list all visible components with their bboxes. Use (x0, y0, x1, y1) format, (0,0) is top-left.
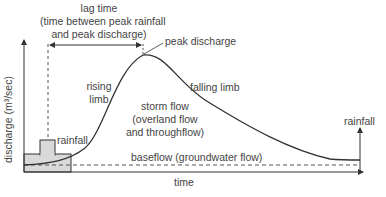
falling-limb-label: falling limb (190, 81, 240, 94)
rising-limb-line-2: limb (84, 93, 114, 106)
storm-flow-line-3: and throughflow) (115, 126, 215, 139)
lag-time-title: lag time (40, 2, 158, 15)
storm-flow-label: storm flow (overland flow and throughflo… (115, 100, 215, 139)
lag-time-desc-2: and peak discharge) (40, 28, 158, 41)
rainfall-right-label: rainfall (344, 115, 375, 128)
storm-flow-line-2: (overland flow (115, 113, 215, 126)
storm-flow-line-1: storm flow (115, 100, 215, 113)
baseflow-label: baseflow (groundwater flow) (131, 151, 262, 164)
lag-time-label: lag time (time between peak rainfall and… (40, 2, 158, 41)
x-axis-label: time (174, 176, 194, 189)
peak-discharge-label: peak discharge (165, 35, 236, 48)
lag-time-desc-1: (time between peak rainfall (40, 15, 158, 28)
rainfall-left-label: rainfall (57, 134, 88, 147)
peak-leader (144, 43, 163, 54)
rising-limb-line-1: rising (84, 80, 114, 93)
y-axis-label: discharge (m³/sec) (2, 76, 14, 163)
rising-limb-label: rising limb (84, 80, 114, 106)
